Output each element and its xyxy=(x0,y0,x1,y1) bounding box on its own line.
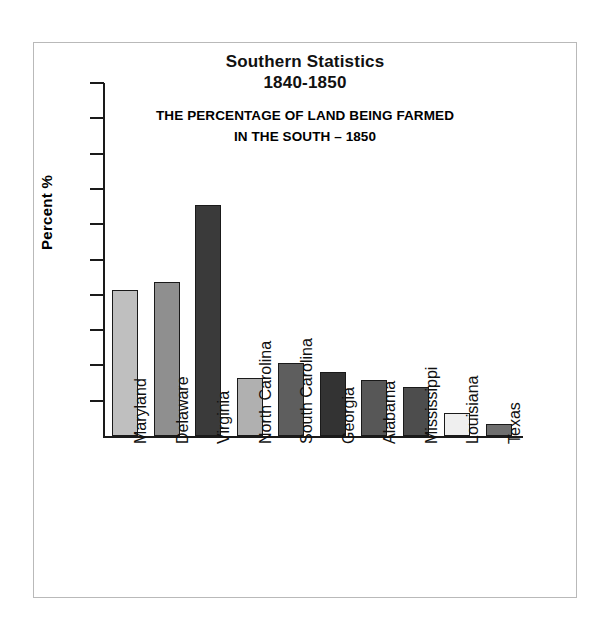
x-axis-tick-label: Delaware xyxy=(174,376,192,444)
chart-title-line-1: Southern Statistics xyxy=(34,51,576,72)
y-axis-label: Percent % xyxy=(38,175,55,250)
y-axis-tick xyxy=(90,329,104,331)
x-axis-tick-label: Texas xyxy=(506,402,524,444)
y-axis-tick xyxy=(90,259,104,261)
y-axis-tick xyxy=(90,153,104,155)
y-axis-tick xyxy=(90,223,104,225)
y-axis-tick xyxy=(90,188,104,190)
x-axis-tick-label: Georgia xyxy=(340,387,358,444)
x-axis-tick-label: Alabama xyxy=(381,381,399,444)
x-axis-tick-label: South Carolina xyxy=(298,338,316,444)
x-axis-tick-labels: MarylandDelawareVirginiaNorth CarolinaSo… xyxy=(105,444,525,594)
x-axis-tick-label: North Carolina xyxy=(257,341,275,444)
y-axis-tick xyxy=(90,400,104,402)
plot-area xyxy=(103,83,558,436)
y-axis-tick xyxy=(90,364,104,366)
y-axis-tick xyxy=(90,82,104,84)
x-axis-tick-label: Maryland xyxy=(132,378,150,444)
x-axis-tick-label: Louisiana xyxy=(464,376,482,445)
y-axis-tick xyxy=(90,294,104,296)
x-axis-tick-label: Mississippi xyxy=(423,367,441,444)
x-axis-tick-label: Virginia xyxy=(215,391,233,444)
y-axis-tick xyxy=(90,117,104,119)
